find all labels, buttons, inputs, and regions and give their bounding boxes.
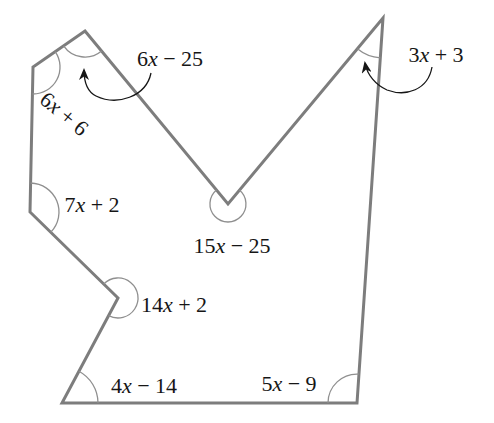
- angle-label-14x-2: 14x + 2: [141, 292, 207, 317]
- angle-label-15x-25: 15x − 25: [193, 233, 270, 258]
- angle-label-4x-14: 4x − 14: [111, 373, 177, 398]
- polygon-angle-diagram-svg: 6x − 253x + 36x + 67x + 215x − 2514x + 2…: [0, 0, 494, 423]
- angle-arc-5x-9: [328, 374, 359, 403]
- geometry-diagram: 6x − 253x + 36x + 67x + 215x − 2514x + 2…: [0, 0, 494, 423]
- angle-arc-3x-3: [357, 49, 380, 58]
- angle-label-5x-9: 5x − 9: [261, 371, 316, 396]
- arrow-to-3x-3-angle: [365, 63, 432, 93]
- arrow-to-6x-25-angle: [84, 70, 151, 100]
- angle-label-7x-2: 7x + 2: [64, 192, 119, 217]
- angle-label-3x-3: 3x + 3: [408, 42, 463, 67]
- angle-label-6x-25: 6x − 25: [137, 46, 203, 71]
- angle-arc-14x-2: [104, 278, 138, 318]
- angle-arc-6x-25: [64, 46, 102, 57]
- angle-arc-4x-14: [79, 371, 98, 403]
- angle-label-6x-6: 6x + 6: [35, 86, 93, 141]
